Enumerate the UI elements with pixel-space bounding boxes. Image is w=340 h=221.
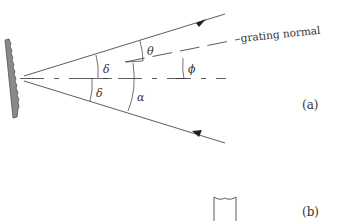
panel-a-label: (a)	[302, 98, 319, 112]
theta-arc	[140, 41, 143, 61]
phi-arc	[183, 58, 184, 79]
delta-upper-arc	[96, 55, 98, 78]
grating-icon	[5, 39, 19, 118]
alpha-arc	[128, 63, 134, 111]
phi-label: ϕ	[188, 63, 196, 76]
delta-upper-label: δ	[103, 63, 110, 76]
panel-b-shape	[214, 197, 236, 221]
diffraction-diagram: δ δ θ α ϕ grating normal (a) (b)	[0, 0, 340, 221]
lower-ray	[24, 81, 225, 143]
delta-lower-label: δ	[96, 87, 103, 100]
alpha-label: α	[137, 91, 145, 104]
grating-normal-label: grating normal	[240, 24, 322, 44]
panel-b-label: (b)	[302, 205, 319, 219]
delta-lower-arc	[90, 79, 92, 101]
theta-label: θ	[147, 45, 154, 58]
arrow-right-icon	[196, 19, 206, 27]
